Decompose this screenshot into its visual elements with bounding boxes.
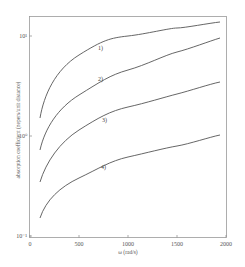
x-tick-label: 0 [29,241,32,247]
curves [40,22,220,218]
curve-label-1: 1) [98,45,103,52]
x-tick-label: 1000 [122,241,134,247]
curve-label-3: 3) [102,117,107,124]
x-tick-label: 2000 [220,241,232,247]
plot-frame [30,17,227,238]
y-axis-label: absorption coefficient (nepers/unit dist… [15,81,22,178]
curve-3 [40,82,220,182]
x-tick-label: 500 [75,241,84,247]
curve-2 [40,38,220,150]
x-tick-label: 1500 [171,241,183,247]
curve-4 [40,135,220,218]
chart: 10¹ 10⁰ 10⁻¹ 0 500 1000 1500 2000 ω (rad… [0,0,245,267]
curve-label-4: 4) [101,164,106,171]
y-tick-label: 10¹ [19,33,27,39]
curve-label-2: 2) [98,76,103,83]
x-axis-label: ω (rad/s) [118,249,138,256]
y-tick-label: 10⁻¹ [16,233,27,239]
